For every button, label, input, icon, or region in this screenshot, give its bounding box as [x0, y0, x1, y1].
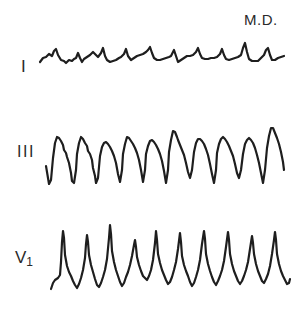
lead-i-trace — [40, 43, 284, 63]
lead-v1-trace — [51, 225, 290, 289]
lead-iii-trace — [46, 128, 284, 184]
ecg-traces — [0, 0, 305, 312]
ecg-figure: M.D. I III V1 — [0, 0, 305, 312]
